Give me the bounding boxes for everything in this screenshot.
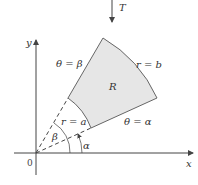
- outer-arc-label: r = b: [136, 59, 162, 70]
- transform-label: T: [119, 2, 127, 13]
- upper-ray-label: θ = β: [56, 58, 83, 69]
- x-axis-label: x: [186, 158, 192, 169]
- region-label: R: [108, 81, 117, 92]
- beta-angle-label: β: [51, 131, 58, 142]
- origin-label: 0: [27, 158, 33, 168]
- angle-arc-alpha: [78, 134, 82, 153]
- polar-region-diagram: T x y 0 R r = b θ = β r = a θ = α β α: [0, 0, 198, 185]
- inner-arc-label: r = a: [61, 116, 87, 127]
- alpha-angle-label: α: [83, 140, 90, 151]
- lower-ray-label: θ = α: [124, 116, 152, 127]
- y-axis-label: y: [25, 37, 32, 48]
